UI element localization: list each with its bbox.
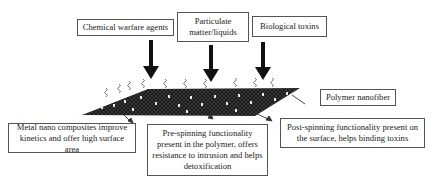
arrow-down-icon — [203, 45, 219, 82]
label-biological-toxins: Biological toxins — [252, 16, 327, 37]
label-particulate-matter: Particulate matter/liquids — [177, 12, 249, 42]
arrow-down-icon — [143, 40, 159, 79]
label-polymer-nanofiber: Polymer nanofiber — [320, 89, 396, 106]
arrow-down-icon — [255, 42, 271, 80]
label-pre-spinning-functionality: Pre-spinning functionality present in th… — [147, 124, 268, 176]
label-chemical-warfare-agents: Chemical warfare agents — [77, 19, 174, 36]
nanofiber-mesh — [82, 88, 300, 116]
label-post-spinning-functionality: Post-spinning functionality present on t… — [280, 118, 425, 148]
arrowhead-icon — [266, 116, 272, 121]
pointer-line — [255, 113, 268, 119]
pointer-line — [292, 95, 305, 104]
label-metal-nano-composites: Metal nano composites improve kinetics a… — [8, 123, 136, 153]
